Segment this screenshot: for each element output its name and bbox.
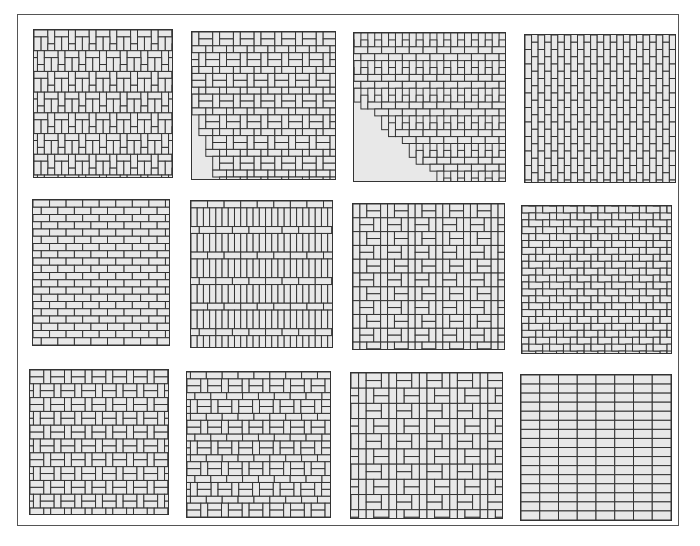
brick-pattern-graphic	[191, 201, 332, 347]
brick-pattern-graphic	[522, 206, 671, 353]
brick-pattern-graphic	[192, 32, 335, 179]
brick-pattern-graphic	[34, 30, 172, 177]
brick-pattern-graphic	[351, 373, 502, 518]
brick-pattern-graphic	[30, 370, 168, 514]
pattern-tile-basketweave-offset	[352, 203, 505, 350]
pattern-tile-diagonal-herringbone	[521, 205, 672, 354]
brick-pattern-graphic	[525, 35, 675, 182]
pattern-tile-pinwheel-stack	[191, 31, 336, 180]
pattern-tile-stack-bond	[520, 374, 672, 521]
brick-pattern-graphic	[33, 200, 169, 345]
pattern-tile-basketweave-with-courses	[186, 371, 331, 518]
pattern-tile-horizontal-running-bond	[32, 199, 170, 346]
brick-pattern-graphic	[353, 204, 504, 349]
brick-pattern-graphic	[354, 33, 505, 181]
brick-pattern-graphic	[521, 375, 671, 520]
brick-pattern-graphic	[187, 372, 330, 517]
pattern-tile-soldier-course-alternating	[190, 200, 333, 348]
pattern-tile-herringbone-basketweave	[353, 32, 506, 182]
pattern-tile-basketweave-half-bond	[29, 369, 169, 515]
pattern-tile-vertical-running-bond	[524, 34, 676, 183]
pattern-tile-double-basketweave	[350, 372, 503, 519]
pattern-tile-pinwheel-basketweave	[33, 29, 173, 178]
